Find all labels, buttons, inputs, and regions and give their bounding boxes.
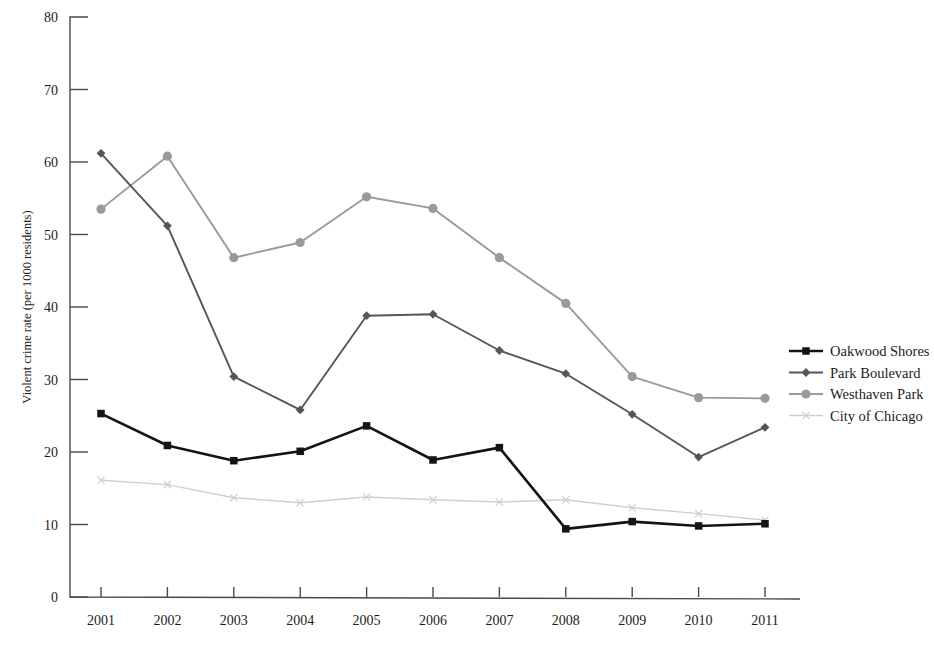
- data-point-marker: [362, 192, 371, 201]
- x-axis-tick-label: 2005: [353, 613, 381, 628]
- data-point-marker: [163, 152, 172, 161]
- legend-item-label: Park Boulevard: [830, 365, 921, 381]
- legend-item-city-of-chicago[interactable]: City of Chicago: [789, 408, 923, 424]
- data-point-marker: [761, 520, 769, 528]
- x-axis-tick-label: 2006: [419, 613, 447, 628]
- y-axis-tick-label: 60: [44, 155, 58, 170]
- series-park-boulevard: [97, 149, 770, 462]
- x-axis-tick-label: 2007: [485, 613, 513, 628]
- y-axis-tick-label: 40: [44, 300, 58, 315]
- y-axis-title: Violent crime rate (per 1000 residents): [20, 210, 34, 403]
- legend-item-oakwood-shores[interactable]: Oakwood Shores: [789, 343, 930, 359]
- x-axis-tick-label: 2004: [286, 613, 314, 628]
- x-axis-tick-label: 2009: [618, 613, 646, 628]
- legend-item-label: City of Chicago: [830, 408, 923, 424]
- data-point-marker: [428, 204, 437, 213]
- series-line: [101, 156, 765, 398]
- data-point-marker: [296, 238, 305, 247]
- data-point-marker: [97, 410, 105, 418]
- data-point-marker: [429, 310, 438, 319]
- y-axis-tick-label: 30: [44, 373, 58, 388]
- y-axis-tick-label: 20: [44, 445, 58, 460]
- chart-canvas: 01020304050607080 2001200220032004200520…: [0, 0, 934, 650]
- data-point-marker: [363, 422, 371, 430]
- data-point-marker: [164, 442, 172, 450]
- y-axis-ticks: 01020304050607080: [44, 10, 88, 605]
- legend-item-label: Oakwood Shores: [830, 343, 930, 359]
- data-point-marker: [561, 299, 570, 308]
- data-point-marker: [562, 525, 570, 533]
- x-axis-tick-label: 2011: [751, 613, 778, 628]
- data-point-marker: [802, 347, 810, 355]
- data-point-marker: [695, 522, 703, 530]
- data-point-marker: [96, 205, 105, 214]
- data-point-marker: [495, 346, 504, 355]
- series-oakwood-shores: [97, 410, 769, 533]
- data-point-marker: [628, 372, 637, 381]
- plot-axes: [70, 17, 800, 599]
- chart-legend: Oakwood ShoresPark BoulevardWesthaven Pa…: [789, 343, 930, 424]
- data-point-marker: [760, 394, 769, 403]
- x-axis-ticks: 2001200220032004200520062007200820092010…: [87, 587, 779, 628]
- data-series-group: [96, 149, 769, 533]
- data-point-marker: [229, 372, 238, 381]
- data-point-marker: [429, 456, 437, 464]
- legend-item-westhaven-park[interactable]: Westhaven Park: [789, 386, 924, 402]
- y-axis-tick-label: 50: [44, 228, 58, 243]
- violent-crime-rate-line-chart: 01020304050607080 2001200220032004200520…: [0, 0, 934, 650]
- y-axis-tick-label: 70: [44, 83, 58, 98]
- data-point-marker: [495, 253, 504, 262]
- legend-item-park-boulevard[interactable]: Park Boulevard: [789, 365, 921, 381]
- x-axis-tick-label: 2001: [87, 613, 115, 628]
- series-line: [101, 153, 765, 457]
- series-city-of-chicago: [97, 477, 768, 524]
- y-axis-tick-label: 80: [44, 10, 58, 25]
- legend-item-label: Westhaven Park: [830, 386, 924, 402]
- y-axis-tick-label: 0: [51, 590, 58, 605]
- x-axis-tick-label: 2003: [220, 613, 248, 628]
- series-westhaven-park: [96, 152, 769, 403]
- data-point-marker: [761, 423, 770, 432]
- data-point-marker: [230, 457, 238, 465]
- y-axis-tick-label: 10: [44, 518, 58, 533]
- y-axis-title-text: Violent crime rate (per 1000 residents): [20, 210, 34, 403]
- data-point-marker: [694, 393, 703, 402]
- data-point-marker: [561, 369, 570, 378]
- x-axis-tick-label: 2002: [153, 613, 181, 628]
- data-point-marker: [801, 389, 810, 398]
- data-point-marker: [229, 253, 238, 262]
- data-point-marker: [496, 444, 504, 452]
- data-point-marker: [628, 518, 636, 526]
- data-point-marker: [802, 368, 811, 377]
- x-axis-tick-label: 2008: [552, 613, 580, 628]
- data-point-marker: [296, 448, 304, 456]
- series-line: [101, 414, 765, 529]
- x-axis-tick-label: 2010: [685, 613, 713, 628]
